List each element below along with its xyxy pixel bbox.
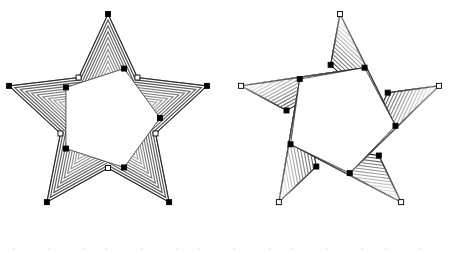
concentric-star-blend[interactable] xyxy=(7,12,210,205)
core-vertex-handle[interactable] xyxy=(63,85,68,90)
core-vertex-handle[interactable] xyxy=(63,146,68,151)
inner-notch-handle[interactable] xyxy=(58,131,63,136)
core-vertex-handle[interactable] xyxy=(122,165,127,170)
core-vertex-handle[interactable] xyxy=(362,65,367,70)
inner-notch-handle[interactable] xyxy=(153,131,158,136)
fan-stripe xyxy=(241,78,295,97)
outer-tip-handle[interactable] xyxy=(436,83,441,88)
inner-notch-handle[interactable] xyxy=(376,153,381,158)
core-vertex-handle[interactable] xyxy=(347,171,352,176)
core-vertex-handle[interactable] xyxy=(297,77,302,82)
vector-artboard[interactable] xyxy=(0,0,456,254)
twisted-star-blend[interactable] xyxy=(239,12,442,205)
outer-tip-handle[interactable] xyxy=(204,83,209,88)
outer-tip-handle[interactable] xyxy=(276,200,281,205)
fan-stripe xyxy=(241,82,268,91)
outer-tip-handle[interactable] xyxy=(167,200,172,205)
core-vertex-handle[interactable] xyxy=(393,123,398,128)
outer-tip-handle[interactable] xyxy=(7,83,12,88)
outer-tip-handle[interactable] xyxy=(338,12,343,17)
fan-stripe xyxy=(241,77,303,99)
core-vertex-handle[interactable] xyxy=(158,116,163,121)
inner-notch-handle[interactable] xyxy=(385,90,390,95)
inner-notch-handle[interactable] xyxy=(328,62,333,67)
inner-notch-handle[interactable] xyxy=(76,75,81,80)
outer-tip-handle[interactable] xyxy=(399,200,404,205)
inner-notch-handle[interactable] xyxy=(106,166,111,171)
outer-tip-handle[interactable] xyxy=(106,12,111,17)
inner-notch-handle[interactable] xyxy=(284,108,289,113)
outer-tip-handle[interactable] xyxy=(44,200,49,205)
fan-stripe xyxy=(336,14,364,63)
drawing-canvas[interactable] xyxy=(0,0,456,254)
outer-tip-handle[interactable] xyxy=(239,83,244,88)
inner-notch-handle[interactable] xyxy=(314,164,319,169)
core-vertex-handle[interactable] xyxy=(122,66,127,71)
inner-notch-handle[interactable] xyxy=(135,75,140,80)
core-vertex-handle[interactable] xyxy=(288,142,293,147)
